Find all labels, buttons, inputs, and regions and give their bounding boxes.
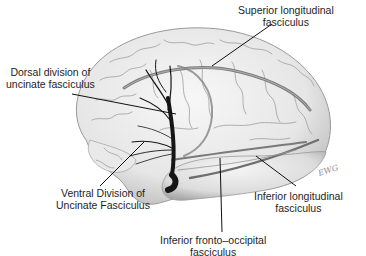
label-line: Inferior longitudinal [254, 190, 343, 202]
label-inferior-longitudinal-fasciculus: Inferior longitudinal fasciculus [254, 190, 343, 214]
label-line: Superior longitudinal [238, 4, 334, 16]
label-line: fasciculus [160, 246, 266, 256]
label-line: Dorsal division of [6, 66, 95, 78]
label-ventral-uncinate-fasciculus: Ventral Division of Uncinate Fasciculus [56, 187, 150, 211]
label-inferior-fronto-occipital-fasciculus: Inferior fronto–occipital fasciculus [160, 234, 266, 256]
label-line: fasciculus [254, 202, 343, 214]
label-line: Uncinate Fasciculus [56, 199, 150, 211]
label-dorsal-uncinate-fasciculus: Dorsal division of uncinate fasciculus [6, 66, 95, 90]
label-line: fasciculus [238, 16, 334, 28]
label-superior-longitudinal-fasciculus: Superior longitudinal fasciculus [238, 4, 334, 28]
label-line: uncinate fasciculus [6, 78, 95, 90]
brain-illustration [0, 0, 366, 256]
brain-fasciculi-diagram: Superior longitudinal fasciculus Dorsal … [0, 0, 366, 256]
label-line: Ventral Division of [56, 187, 150, 199]
label-line: Inferior fronto–occipital [160, 234, 266, 246]
